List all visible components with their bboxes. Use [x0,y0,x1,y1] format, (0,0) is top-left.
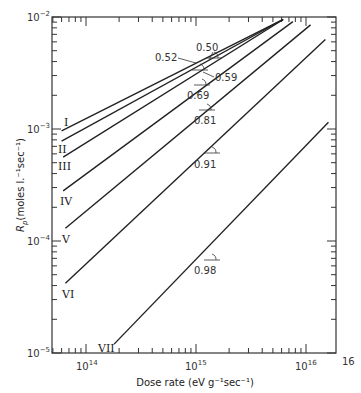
series-label-iv: IV [60,195,73,208]
series-line-iii [63,19,283,157]
plot-frame [52,17,336,353]
x-tick-label: 1014 [76,359,98,372]
chart-canvas: 1014101510161610−210−310−410−5Dose rate … [0,0,361,393]
series-label-iii: III [58,160,71,173]
series-label-ii: II [58,143,67,156]
slope-annotation: 0.59 [215,72,237,83]
x-tick-extra: 16 [342,356,355,367]
series-label-vi: VI [61,288,74,301]
slope-annotation: 0.69 [187,90,209,101]
y-tick-label: 10−3 [27,122,50,135]
slope-annotation: 0.81 [194,115,216,126]
series-line-iv [63,22,293,191]
series-line-vii [114,122,328,344]
series-line-ii [62,19,284,141]
slope-annotation: 0.91 [194,159,216,170]
axis-ticks [52,17,336,353]
y-axis-label: Rp(moles l.⁻¹sec⁻¹) [15,138,29,232]
x-tick-label: 1015 [185,359,207,372]
series-label-i: I [64,116,68,129]
y-tick-label: 10−2 [27,10,50,23]
series-label-v: V [61,233,71,246]
slope-annotation: 0.52 [155,52,177,63]
series-label-vii: VII [97,342,115,355]
slope-annotation: 0.98 [194,265,216,276]
x-axis-label: Dose rate (eV g⁻¹sec⁻¹) [136,377,254,388]
series-line-v [65,25,310,228]
slope-annotation: 0.50 [196,42,218,53]
y-tick-label: 10−4 [27,234,51,247]
y-tick-label: 10−5 [27,346,50,359]
x-tick-label: 1016 [295,359,317,372]
